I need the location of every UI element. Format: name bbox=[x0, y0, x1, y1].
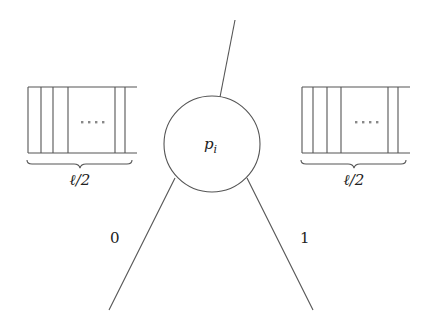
right-array-ellipsis bbox=[355, 121, 378, 123]
edge-1-label: 1 bbox=[300, 229, 310, 247]
right-array: ℓ/2 bbox=[301, 87, 410, 189]
left-array: ℓ/2 bbox=[27, 87, 137, 189]
left-brace bbox=[27, 160, 132, 168]
left-array-ellipsis bbox=[81, 121, 104, 123]
right-brace-label: ℓ/2 bbox=[344, 171, 365, 189]
parent-edge bbox=[220, 20, 235, 97]
diagram-canvas: pi 0 1 ℓ/2 bbox=[0, 0, 426, 332]
node-label: pi bbox=[204, 135, 217, 156]
edge-0-label: 0 bbox=[110, 229, 120, 247]
right-brace bbox=[301, 160, 406, 168]
left-brace-label: ℓ/2 bbox=[70, 171, 91, 189]
